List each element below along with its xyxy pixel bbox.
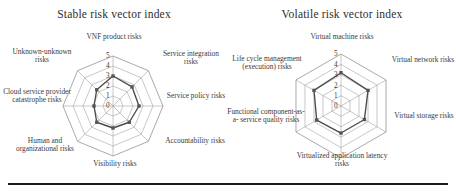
axis-label-accountability-risks: Accountability risks <box>164 137 226 145</box>
svg-text:3: 3 <box>106 72 110 80</box>
axis-label-vnf-product-risks: VNF product risks <box>72 33 156 41</box>
svg-text:5: 5 <box>334 50 338 58</box>
axis-label-human-and-organizational-risks: Human and organizational risks <box>6 137 84 154</box>
axis-label-visibility-risks: Visibility risks <box>80 160 150 168</box>
chart-panel-stable: Stable risk vector index 543210 VNF prod… <box>0 0 228 178</box>
svg-text:0: 0 <box>334 102 338 110</box>
svg-text:3: 3 <box>334 71 338 79</box>
svg-text:4: 4 <box>334 61 338 69</box>
svg-text:1: 1 <box>334 92 338 100</box>
axis-label-virtual-storage-risks: Virtual storage risks <box>393 112 455 120</box>
figure-baseline-rule <box>8 183 448 185</box>
axis-label-unknown-unknown-risks: Unknown-unknown risks <box>6 48 78 65</box>
svg-text:5: 5 <box>106 52 110 60</box>
chart-panel-volatile: Volatile risk vector index 543210 Virtua… <box>228 0 456 178</box>
axis-label-life-cycle-management-execution-risks: Life cycle management (execution) risks <box>228 55 306 72</box>
svg-text:2: 2 <box>334 82 338 90</box>
svg-text:4: 4 <box>106 62 110 70</box>
axis-label-virtual-network-risks: Virtual network risks <box>391 56 455 64</box>
svg-text:1: 1 <box>106 92 110 100</box>
svg-text:0: 0 <box>106 102 110 110</box>
axis-label-service-integration-risks: Service integration risks <box>158 50 224 67</box>
axis-label-functional-component-as-a-service-quality-risks: Functional component-as-a- service quali… <box>226 108 306 125</box>
axis-label-cloud-service-provider-catastrophe-risks: Cloud service provider catastrophe risks <box>0 88 74 105</box>
axis-label-service-policy-risks: Service policy risks <box>166 92 226 100</box>
figure-container: Stable risk vector index 543210 VNF prod… <box>0 0 456 193</box>
axis-label-virtual-machine-risks: Virtual machine risks <box>298 33 386 41</box>
axis-label-virtualized-application-latency-risks: Virtualized application latency risks <box>296 152 388 169</box>
svg-text:2: 2 <box>106 82 110 90</box>
